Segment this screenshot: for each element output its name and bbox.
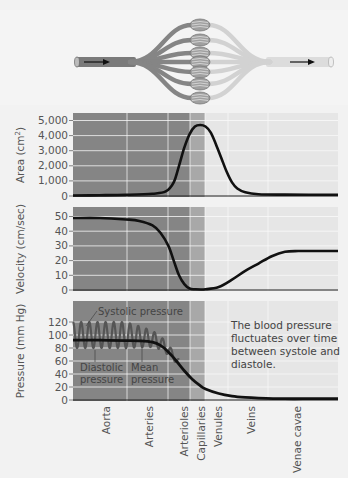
y-tick-label: 1,000 <box>38 174 68 186</box>
capillary-bed <box>190 34 210 46</box>
venous-band <box>205 113 338 197</box>
blood-pressure-note: fluctuates over time <box>231 332 337 344</box>
y-tick-label: 0 <box>61 190 68 202</box>
y-axis-title: Area (cm2) <box>14 127 26 183</box>
y-tick-label: 3,000 <box>38 144 68 156</box>
x-category-label: Venae cavae <box>291 406 303 473</box>
vessel-type-labels: AortaArteriesArteriolesCapillariesVenule… <box>100 406 303 473</box>
y-tick-label: 120 <box>48 316 68 328</box>
y-tick-label: 80 <box>55 342 68 354</box>
y-tick-label: 0 <box>61 394 68 406</box>
x-category-label: Venules <box>212 406 224 447</box>
vena-cava-opening <box>329 57 334 67</box>
capillary-bed <box>190 92 210 104</box>
aorta-opening <box>75 57 80 67</box>
x-category-label: Aorta <box>100 406 112 434</box>
blood-pressure-note: diastole. <box>231 358 276 370</box>
y-tick-label: 40 <box>55 225 68 237</box>
y-tick-label: 50 <box>55 210 68 222</box>
diastolic-pressure-label: pressure <box>80 374 123 385</box>
x-category-label: Arterioles <box>178 406 190 457</box>
y-tick-label: 0 <box>61 284 68 296</box>
velocity-chart: 01020304050Velocity (cm/sec) <box>14 204 338 295</box>
pressure-chart: 020406080100120Pressure (mm Hg)Systolic … <box>14 301 340 406</box>
y-tick-label: 40 <box>55 368 68 380</box>
systolic-pressure-label: Systolic pressure <box>98 306 183 317</box>
y-tick-label: 100 <box>48 329 68 341</box>
y-tick-label: 5,000 <box>38 114 68 126</box>
capillary-bed <box>190 78 210 90</box>
mean-pressure-label: pressure <box>131 374 174 385</box>
capillary-bed <box>190 19 210 31</box>
y-tick-label: 30 <box>55 239 68 251</box>
y-axis-title: Velocity (cm/sec) <box>14 204 26 294</box>
y-tick-label: 20 <box>55 381 68 393</box>
y-axis-title: Pressure (mm Hg) <box>14 304 26 399</box>
x-category-label: Capillaries <box>195 406 207 461</box>
venous-band <box>205 207 338 291</box>
capillary-bed <box>190 66 210 78</box>
blood-pressure-note: The blood pressure <box>230 319 332 331</box>
y-tick-label: 10 <box>55 269 68 281</box>
mean-pressure-label: Mean <box>131 362 158 373</box>
x-category-label: Arteries <box>143 406 155 447</box>
vessel-branching-diagram <box>0 10 348 105</box>
diastolic-pressure-label: Diastolic <box>80 362 123 373</box>
blood-pressure-note: between systole and <box>231 345 340 357</box>
x-category-label: Veins <box>245 406 257 434</box>
y-tick-label: 20 <box>55 254 68 266</box>
area-chart: 01,0002,0003,0004,0005,000Area (cm2) <box>14 113 338 202</box>
circulation-figure: 01,0002,0003,0004,0005,000Area (cm2) 010… <box>0 0 348 478</box>
capillary-band <box>190 207 205 291</box>
y-tick-label: 4,000 <box>38 129 68 141</box>
y-tick-label: 60 <box>55 355 68 367</box>
y-tick-label: 2,000 <box>38 159 68 171</box>
